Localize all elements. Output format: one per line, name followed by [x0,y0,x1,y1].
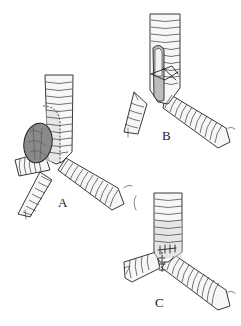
panel-label-b: B [162,129,171,142]
panel-c-shading [155,220,182,258]
panel-c-right-bronchus [162,252,230,310]
panel-a-drawing [15,75,136,219]
panel-c-drawing [124,193,235,310]
panel-a-bronchus-end [124,185,132,188]
panel-b-right-bronchus [163,92,230,148]
surgical-illustration: A B C [0,0,241,326]
panel-label-a: A [58,196,67,209]
panel-b-bronchus-end [228,127,235,129]
panel-b-drawing [124,14,235,148]
panel-label-c: C [155,296,164,309]
panel-a-right-bronchus [58,158,124,210]
panel-c-bronchus-end [228,291,235,293]
panel-a-bronchus-opening [134,196,136,210]
